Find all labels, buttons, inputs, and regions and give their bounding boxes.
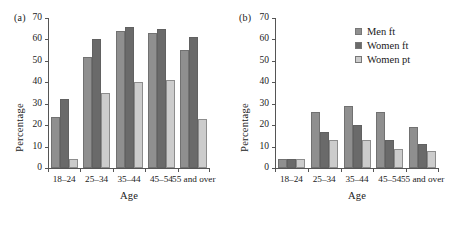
legend-item: Women ft xyxy=(355,38,410,52)
y-tick-label: 0 xyxy=(247,163,269,173)
y-tick-mark xyxy=(45,82,48,83)
y-tick-label: 70 xyxy=(247,13,269,23)
panel-b: (b) Percentage 01020304050607018–2425–34… xyxy=(227,0,453,228)
x-tick-mark xyxy=(275,169,276,172)
bar xyxy=(148,33,157,168)
bar xyxy=(353,125,362,168)
x-tick-mark xyxy=(341,169,342,172)
bar xyxy=(92,39,101,168)
bar xyxy=(311,112,320,168)
bar xyxy=(409,127,418,168)
x-tick-mark xyxy=(113,169,114,172)
y-tick-mark xyxy=(272,125,275,126)
x-tick-mark xyxy=(48,169,49,172)
x-axis-label: Age xyxy=(327,190,387,201)
bar xyxy=(296,159,305,168)
bar xyxy=(418,144,427,168)
bar xyxy=(134,82,143,168)
legend: Men ftWomen ftWomen pt xyxy=(355,24,410,66)
y-tick-label: 60 xyxy=(20,34,42,44)
y-tick-mark xyxy=(272,39,275,40)
y-tick-label: 50 xyxy=(247,56,269,66)
legend-label: Men ft xyxy=(367,26,395,37)
x-axis-label: Age xyxy=(99,190,159,201)
y-tick-label: 10 xyxy=(247,142,269,152)
bar xyxy=(287,159,296,168)
bar xyxy=(376,112,385,168)
bar xyxy=(83,57,92,168)
y-tick-label: 40 xyxy=(247,77,269,87)
y-tick-label: 50 xyxy=(20,56,42,66)
y-tick-label: 40 xyxy=(20,77,42,87)
bar xyxy=(427,151,436,168)
x-tick-mark xyxy=(145,169,146,172)
y-tick-mark xyxy=(272,104,275,105)
legend-swatch-icon xyxy=(355,28,362,35)
y-axis-line xyxy=(48,18,49,168)
legend-label: Women pt xyxy=(367,54,410,65)
y-tick-mark xyxy=(272,147,275,148)
y-tick-mark xyxy=(45,125,48,126)
x-axis-line xyxy=(275,168,439,169)
panel-a-plot-area: 01020304050607018–2425–3435–4445–5455 an… xyxy=(48,18,210,168)
y-tick-mark xyxy=(272,61,275,62)
bar xyxy=(51,117,60,168)
x-tick-mark xyxy=(80,169,81,172)
bar xyxy=(278,159,287,168)
bar xyxy=(101,93,110,168)
bar xyxy=(60,99,69,168)
y-tick-mark xyxy=(45,18,48,19)
x-tick-label: 55 and over xyxy=(401,174,445,185)
x-tick-label: 55 and over xyxy=(172,174,216,185)
x-tick-mark xyxy=(209,169,210,172)
x-tick-mark xyxy=(308,169,309,172)
y-tick-mark xyxy=(45,104,48,105)
bar xyxy=(125,27,134,168)
bar xyxy=(69,159,78,168)
y-tick-label: 70 xyxy=(20,13,42,23)
y-tick-label: 20 xyxy=(247,120,269,130)
legend-swatch-icon xyxy=(355,42,362,49)
bar xyxy=(157,29,166,168)
x-tick-mark xyxy=(438,169,439,172)
x-tick-mark xyxy=(406,169,407,172)
bar xyxy=(329,140,338,168)
y-tick-mark xyxy=(45,39,48,40)
bar xyxy=(116,31,125,168)
y-tick-label: 0 xyxy=(20,163,42,173)
bar xyxy=(189,37,198,168)
x-tick-mark xyxy=(373,169,374,172)
bar xyxy=(344,106,353,168)
y-axis-line xyxy=(275,18,276,168)
legend-item: Women pt xyxy=(355,52,410,66)
bar xyxy=(166,80,175,168)
bar xyxy=(320,132,329,168)
y-tick-mark xyxy=(272,82,275,83)
bar xyxy=(198,119,207,168)
y-tick-mark xyxy=(45,61,48,62)
y-tick-label: 30 xyxy=(20,99,42,109)
y-tick-label: 10 xyxy=(20,142,42,152)
y-tick-mark xyxy=(272,18,275,19)
x-tick-mark xyxy=(178,169,179,172)
legend-swatch-icon xyxy=(355,56,362,63)
x-axis-line xyxy=(48,168,210,169)
bar xyxy=(180,50,189,168)
bar xyxy=(362,140,371,168)
figure-two-panel-bar-chart: (a) Percentage 01020304050607018–2425–34… xyxy=(0,0,453,228)
bar xyxy=(385,140,394,168)
y-tick-label: 20 xyxy=(20,120,42,130)
y-tick-label: 60 xyxy=(247,34,269,44)
bar xyxy=(394,149,403,168)
y-tick-label: 30 xyxy=(247,99,269,109)
legend-item: Men ft xyxy=(355,24,410,38)
y-tick-mark xyxy=(45,147,48,148)
panel-a: (a) Percentage 01020304050607018–2425–34… xyxy=(0,0,226,228)
legend-label: Women ft xyxy=(367,40,408,51)
